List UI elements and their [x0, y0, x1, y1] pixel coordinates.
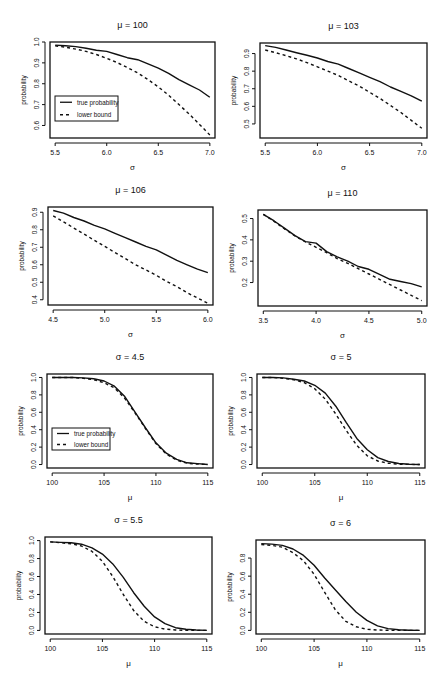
y-tick-label: 0.2 [241, 278, 248, 287]
x-axis-label: μ [126, 659, 131, 668]
plot-frame [48, 207, 213, 305]
y-tick-label: 0.2 [30, 442, 37, 451]
x-axis-label: μ [339, 493, 344, 502]
x-tick-label: 100 [256, 479, 268, 486]
plot-frame [258, 210, 427, 306]
y-tick-label: 0.4 [240, 425, 247, 434]
legend-label: true probability [77, 99, 119, 107]
chart-panel-4: μ = 1103.54.04.55.0σ0.20.30.40.5probabil… [228, 188, 427, 340]
x-tick-label: 7.0 [205, 149, 215, 156]
chart-panel-7: σ = 5.5100105110115μ0.00.20.40.60.81.0pr… [15, 515, 212, 668]
y-tick-label: 1.0 [30, 373, 37, 382]
x-tick-label: 110 [149, 645, 160, 652]
y-tick-label: 0.0 [28, 626, 35, 635]
x-tick-label: 6.0 [203, 316, 213, 323]
y-tick-label: 0.8 [240, 390, 247, 399]
x-tick-label: 6.0 [102, 149, 112, 156]
y-tick-label: 0.6 [33, 121, 40, 130]
chart-title: σ = 5.5 [114, 515, 142, 525]
x-tick-label: 3.5 [258, 317, 268, 324]
y-tick-label: 0.5 [241, 214, 248, 223]
y-tick-label: 0.8 [28, 554, 35, 563]
series-true-probability [265, 46, 422, 102]
x-axis-label: σ [128, 330, 133, 339]
y-tick-label: 0.6 [240, 407, 247, 416]
x-tick-label: 115 [201, 645, 212, 652]
chart-title: σ = 4.5 [116, 352, 144, 362]
y-tick-label: 0.7 [243, 84, 250, 93]
x-tick-label: 6.5 [365, 149, 375, 156]
legend: true probabilitylower bound [55, 96, 119, 121]
legend-label: lower bound [74, 441, 109, 448]
x-tick-label: 105 [98, 479, 110, 486]
y-tick-label: 0.8 [33, 79, 40, 88]
y-tick-label: 0.4 [239, 589, 246, 598]
legend: true probabilitylower bound [52, 428, 116, 450]
chart-panel-3: μ = 1064.55.05.56.0σ0.40.50.60.70.80.9pr… [18, 185, 213, 339]
x-tick-label: 5.0 [100, 316, 110, 323]
x-tick-label: 5.5 [260, 149, 270, 156]
y-tick-label: 0.4 [28, 590, 35, 599]
y-tick-label: 0.0 [30, 460, 37, 469]
chart-panel-6: σ = 5100105110115μ0.00.20.40.60.81.0prob… [227, 352, 425, 502]
chart-title: σ = 6 [330, 518, 351, 528]
series-true-probability [261, 544, 419, 631]
y-tick-label: 0.5 [31, 277, 38, 286]
y-tick-label: 0.9 [33, 58, 40, 67]
y-tick-label: 0.6 [31, 260, 38, 269]
y-tick-label: 0.2 [239, 607, 246, 616]
chart-panel-5: σ = 4.5100105110115μ0.00.20.40.60.81.0pr… [17, 352, 213, 502]
y-tick-label: 0.9 [31, 207, 38, 216]
x-tick-label: 100 [44, 645, 56, 652]
y-tick-label: 1.0 [28, 536, 35, 545]
y-tick-label: 0.6 [28, 572, 35, 581]
x-tick-label: 105 [308, 645, 320, 652]
y-tick-label: 0.8 [31, 225, 38, 234]
x-tick-label: 4.5 [364, 317, 374, 324]
x-tick-label: 5.5 [151, 316, 161, 323]
chart-title: σ = 5 [331, 352, 352, 362]
x-tick-label: 100 [255, 645, 267, 652]
series-lower-bound [52, 378, 208, 465]
series-lower-bound [263, 214, 421, 300]
y-tick-label: 0.3 [241, 256, 248, 265]
y-tick-label: 0.5 [243, 119, 250, 128]
y-tick-label: 0.6 [30, 407, 37, 416]
y-tick-label: 1.0 [240, 373, 247, 382]
y-tick-label: 0.7 [31, 242, 38, 251]
legend-label: true probability [74, 430, 116, 438]
chart-title: μ = 103 [328, 21, 358, 31]
y-tick-label: 0.6 [239, 571, 246, 580]
y-tick-label: 0.4 [30, 425, 37, 434]
x-tick-label: 100 [46, 479, 58, 486]
x-tick-label: 105 [309, 479, 321, 486]
x-tick-label: 115 [202, 479, 213, 486]
y-axis-label: probability [227, 405, 235, 435]
x-axis-label: μ [128, 493, 133, 502]
figure-grid: μ = 1005.56.06.57.0σ0.60.70.80.91.0proba… [0, 0, 446, 679]
x-axis-label: μ [338, 659, 343, 668]
series-true-probability [52, 378, 208, 465]
y-axis-label: probability [226, 571, 234, 601]
y-axis-label: probability [17, 405, 25, 435]
y-axis-label: probability [15, 570, 23, 600]
y-tick-label: 1.0 [33, 37, 40, 46]
x-tick-label: 5.5 [50, 149, 60, 156]
y-tick-label: 0.4 [31, 295, 38, 304]
chart-title: μ = 100 [117, 20, 147, 30]
x-tick-label: 110 [362, 479, 373, 486]
plot-frame [50, 42, 215, 138]
x-tick-label: 6.5 [153, 149, 163, 156]
x-tick-label: 4.5 [48, 316, 58, 323]
chart-panel-1: μ = 1005.56.06.57.0σ0.60.70.80.91.0proba… [20, 20, 215, 172]
y-tick-label: 0.0 [239, 625, 246, 634]
y-tick-label: 0.0 [240, 460, 247, 469]
y-axis-label: probability [228, 242, 236, 272]
y-tick-label: 0.4 [241, 235, 248, 244]
y-tick-label: 0.8 [243, 66, 250, 75]
plot-frame [47, 374, 213, 468]
series-lower-bound [53, 216, 208, 303]
x-tick-label: 110 [361, 645, 372, 652]
chart-title: μ = 106 [115, 185, 145, 195]
series-lower-bound [262, 378, 420, 465]
